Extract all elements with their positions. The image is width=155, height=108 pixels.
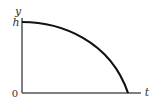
h-tick-label: h (12, 16, 19, 29)
zero-tick-label: 0 (12, 88, 18, 99)
height-curve (22, 22, 128, 93)
x-axis-label: t (145, 86, 150, 99)
chart: y h 0 t (0, 0, 155, 108)
